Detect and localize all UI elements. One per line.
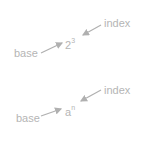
arrows [0, 0, 144, 70]
base-arrow-icon [41, 109, 61, 116]
index-label: index [104, 85, 130, 96]
power-expression: an [65, 103, 75, 118]
expression-index: n [71, 104, 75, 111]
exponent-diagram-numeric: base 23 index [0, 0, 144, 70]
index-label: index [104, 18, 130, 29]
exponent-diagram-symbolic: base an index [0, 70, 144, 140]
base-label: base [14, 48, 38, 59]
base-label: base [16, 113, 40, 124]
power-expression: 23 [65, 36, 75, 51]
expression-index: 3 [71, 37, 75, 44]
base-arrow-icon [41, 43, 62, 53]
index-arrow-icon [81, 90, 101, 101]
index-arrow-icon [83, 25, 101, 35]
